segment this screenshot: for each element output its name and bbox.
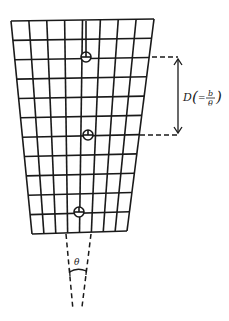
grid-column-line — [47, 21, 56, 234]
fan-beam-diagram: D ( = b θ ) θ — [0, 0, 229, 321]
angle-arc — [70, 268, 87, 276]
grid-column-line — [65, 20, 68, 233]
dimension-label: D ( = b θ ) — [182, 88, 222, 108]
grid-column-line — [29, 21, 44, 234]
grid-column-line — [103, 20, 118, 232]
fraction-denominator: θ — [208, 99, 213, 108]
marker-top — [81, 52, 91, 62]
markers — [74, 52, 93, 217]
close-paren: ) — [215, 88, 222, 106]
marker-bottom — [74, 207, 84, 217]
grid-column-line — [115, 19, 136, 231]
marker-middle — [83, 130, 93, 140]
perspective-grid — [11, 19, 154, 234]
equals-sign: = — [198, 93, 206, 103]
dimension-arrow — [174, 59, 182, 133]
grid-column-line — [91, 20, 100, 232]
grid-column-line — [127, 19, 154, 231]
grid-row-line — [13, 38, 152, 40]
dimension-leader-lines — [140, 57, 178, 135]
grid-row-line — [11, 19, 154, 21]
grid-row-line — [17, 77, 147, 79]
angle-label: θ — [74, 257, 80, 267]
grid-column-line — [11, 21, 32, 234]
dimension-symbol: D — [182, 91, 192, 104]
grid-column-line — [80, 20, 83, 233]
fraction-numerator: b — [208, 89, 213, 98]
